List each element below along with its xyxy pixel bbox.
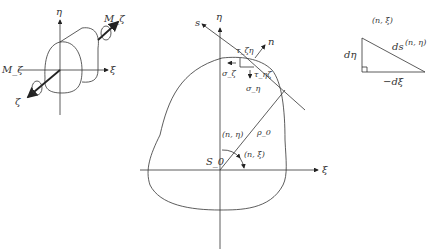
- label-d-eta: dη: [344, 49, 356, 60]
- tangent-line: [240, 52, 305, 110]
- label-ds: ds: [392, 41, 404, 52]
- label-angle-n-eta-right: (n, η): [405, 38, 426, 47]
- label-origin: S_0: [206, 156, 225, 168]
- label-xi-center: ξ: [322, 164, 328, 175]
- angle-arc-n-xi: [240, 158, 244, 168]
- right-angle-mark: [362, 67, 367, 72]
- label-angle-n-xi-right: (n, ξ): [372, 16, 393, 25]
- label-sigma-zeta: σ_ζ: [222, 69, 236, 78]
- label-n: n: [268, 36, 274, 47]
- label-tau-zeta-eta: τ_ζη: [236, 46, 254, 55]
- diagram-canvas: η ξ ζ M_ζ M_ζ η ξ s n τ_ζη σ_ζ τ_ηζ σ_η …: [0, 0, 438, 249]
- label-xi: ξ: [110, 64, 116, 75]
- s-direction: [202, 24, 240, 52]
- left-panel: η ξ ζ M_ζ M_ζ: [1, 6, 125, 115]
- label-moment-left: M_ζ: [1, 64, 23, 76]
- cross-section-front: [45, 42, 82, 93]
- label-rho0: ρ_0: [256, 128, 271, 137]
- label-minus-d-xi: −dξ: [383, 76, 404, 87]
- n-direction: [255, 45, 265, 58]
- label-sigma-eta: σ_η: [246, 84, 260, 93]
- label-angle-n-xi: (n, ξ): [244, 150, 265, 159]
- label-moment-top: M_ζ: [103, 13, 125, 25]
- label-eta-center: η: [216, 11, 222, 22]
- center-panel: η ξ s n τ_ζη σ_ζ τ_ηζ σ_η ρ_0 S_0 (n, η)…: [140, 11, 328, 249]
- moment-circle-left: [32, 81, 42, 95]
- label-zeta: ζ: [15, 96, 21, 107]
- label-tau-eta-zeta: τ_ηζ: [254, 70, 272, 79]
- right-panel: (n, ξ) (n, η) ds dη −dξ: [344, 16, 426, 87]
- label-eta: η: [56, 6, 62, 17]
- label-s: s: [195, 17, 200, 28]
- label-angle-n-eta: (n, η): [222, 130, 243, 139]
